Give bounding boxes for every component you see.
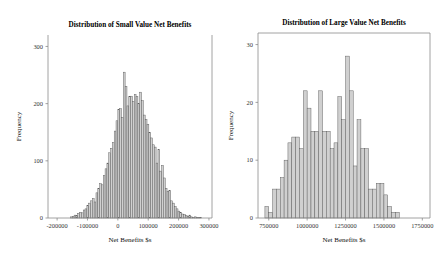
histogram-bar [80, 212, 82, 218]
y-tick-label: 0 [250, 214, 253, 221]
histogram-bar [136, 97, 138, 218]
histogram-bar [105, 169, 107, 218]
histogram-bar [85, 209, 87, 218]
histogram-bar [307, 108, 311, 218]
histogram-bar [160, 171, 162, 218]
small-value-histogram-svg: Distribution of Small Value Net Benefits… [0, 0, 222, 265]
histogram-bar [151, 138, 153, 218]
y-tick-label: 20 [247, 99, 253, 106]
histogram-bar [156, 163, 158, 218]
histogram-bar [123, 72, 125, 218]
histogram-bar [162, 165, 164, 218]
histogram-bar [129, 97, 131, 218]
histogram-bar [138, 104, 140, 218]
x-tick-label: 1500000 [373, 222, 395, 229]
small-value-histogram-xticks: -200000-1000000100000200000300000 [46, 218, 218, 229]
histogram-bar [109, 153, 111, 218]
histogram-bar [98, 188, 100, 218]
histogram-bar [326, 131, 330, 218]
small-value-histogram-bars [70, 72, 201, 218]
small-value-histogram-xlabel: Net Benefits $s [108, 236, 151, 244]
histogram-bar [380, 183, 384, 218]
histogram-bar [269, 212, 273, 218]
histogram-bar [91, 201, 93, 218]
histogram-bar [189, 215, 191, 218]
large-value-histogram-ylabel: Frequency [227, 110, 235, 140]
y-tick-label: 100 [33, 157, 43, 164]
histogram-bar [346, 56, 350, 218]
histogram-bar [376, 183, 380, 218]
histogram-bar [284, 160, 288, 218]
histogram-bar [330, 149, 334, 218]
histogram-bar [174, 207, 176, 218]
large-value-histogram-xlabel: Net Benefits $s [322, 236, 365, 244]
large-value-histogram-xticks: 7500001000000125000015000001750000 [259, 218, 433, 229]
large-value-histogram-yticks: 0102030 [247, 41, 258, 221]
histogram-bar [152, 145, 154, 218]
histogram-bar [334, 143, 338, 218]
x-tick-label: 1000000 [296, 222, 318, 229]
y-tick-label: 30 [247, 41, 253, 48]
y-tick-label: 10 [247, 156, 253, 163]
large-value-histogram-title: Distribution of Large Value Net Benefits [282, 19, 406, 27]
histogram-bar [163, 178, 165, 218]
histogram-bar [171, 201, 173, 218]
y-tick-label: 0 [40, 214, 43, 221]
x-tick-label: 0 [116, 222, 119, 229]
small-value-histogram-yticks: 0100200300 [33, 43, 48, 222]
histogram-bar [276, 189, 280, 218]
histogram-bar [273, 189, 277, 218]
histogram-bar [149, 132, 151, 218]
histogram-bar [145, 120, 147, 218]
histogram-bar [357, 120, 361, 218]
large-value-histogram-bars [265, 56, 399, 218]
histogram-bar [388, 206, 392, 218]
histogram-bar [338, 97, 342, 218]
x-tick-label: 750000 [259, 222, 278, 229]
histogram-bar [118, 109, 120, 218]
histogram-bar [142, 101, 144, 218]
histogram-bar [361, 149, 365, 218]
histogram-bar [296, 137, 300, 218]
histogram-bar [292, 137, 296, 218]
histogram-bar [288, 143, 292, 218]
histogram-bar [121, 117, 123, 218]
histogram-bar [280, 178, 284, 218]
histogram-bar [83, 210, 85, 218]
histogram-bar [140, 92, 142, 218]
histogram-bar [299, 149, 303, 218]
x-tick-label: 1250000 [334, 222, 356, 229]
histogram-bar [154, 147, 156, 218]
histogram-bar [112, 143, 114, 218]
histogram-bar [395, 212, 399, 218]
histogram-bar [96, 193, 98, 218]
histogram-bar [78, 213, 80, 218]
chart-panel-small-value: Distribution of Small Value Net Benefits… [0, 0, 222, 265]
histogram-bar [92, 199, 94, 218]
histogram-bar [132, 101, 134, 218]
x-tick-label: -100000 [77, 222, 98, 229]
histogram-bar [111, 148, 113, 218]
histogram-bar [94, 202, 96, 218]
histogram-bar [74, 215, 76, 218]
histogram-bar [178, 211, 180, 218]
x-tick-label: 1750000 [411, 222, 433, 229]
y-tick-label: 200 [33, 100, 43, 107]
histogram-bar [319, 91, 323, 218]
histogram-bar [392, 212, 396, 218]
histogram-bar [131, 96, 133, 218]
histogram-bar [311, 131, 315, 218]
x-tick-label: 100000 [139, 222, 158, 229]
histogram-bar [125, 86, 127, 218]
histogram-bar [120, 109, 122, 218]
histogram-bar [89, 203, 91, 218]
histogram-bar [169, 191, 171, 218]
histogram-bar [167, 192, 169, 218]
histogram-bar [147, 124, 149, 218]
histogram-bar [173, 203, 175, 218]
histogram-bar [183, 215, 185, 218]
figure-canvas: Distribution of Small Value Net Benefits… [0, 0, 444, 265]
chart-panel-large-value: Distribution of Large Value Net Benefits… [222, 0, 444, 265]
histogram-bar [165, 188, 167, 218]
histogram-bar [265, 206, 269, 218]
